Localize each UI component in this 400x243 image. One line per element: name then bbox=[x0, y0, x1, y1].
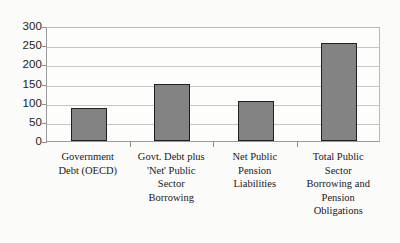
x-axis-category-label-line: Pension bbox=[215, 164, 295, 178]
x-axis-category-label-line: Pension bbox=[299, 191, 379, 205]
y-axis-tick-label: 200 bbox=[2, 59, 42, 71]
x-axis-category-label-line: Liabilities bbox=[215, 177, 295, 191]
x-axis-category-label-line: Net Public bbox=[215, 150, 295, 164]
x-axis-labels: GovernmentDebt (OECD)Govt. Debt plus'Net… bbox=[46, 150, 380, 240]
x-axis-category-label-line: Govt. Debt plus bbox=[132, 150, 212, 164]
x-axis-category-label-line: Borrowing bbox=[132, 191, 212, 205]
chart-page: 300250200150100500 GovernmentDebt (OECD)… bbox=[0, 0, 400, 243]
x-axis-tick-mark bbox=[130, 142, 131, 147]
x-axis-category-label-line: Obligations bbox=[299, 204, 379, 218]
x-axis-category-label-line: Government bbox=[48, 150, 128, 164]
x-axis-category-label-line: Sector bbox=[299, 164, 379, 178]
bar bbox=[154, 84, 190, 141]
bar-slot bbox=[214, 28, 298, 141]
x-axis-category-label-line: 'Net' Public bbox=[132, 164, 212, 178]
y-axis-tick-label: 150 bbox=[2, 79, 42, 91]
bar bbox=[71, 108, 107, 141]
x-axis-category-label-line: Total Public bbox=[299, 150, 379, 164]
y-axis-tick-label: 300 bbox=[2, 21, 42, 33]
x-axis-category-label: Net PublicPensionLiabilities bbox=[213, 150, 297, 240]
bar bbox=[321, 43, 357, 141]
y-axis-tick-label: 0 bbox=[2, 136, 42, 148]
x-axis-category-label: Total PublicSectorBorrowing andPensionOb… bbox=[297, 150, 381, 240]
x-axis-category-label: Govt. Debt plus'Net' PublicSectorBorrowi… bbox=[130, 150, 214, 240]
bar-slot bbox=[131, 28, 215, 141]
x-axis-category-label-line: Borrowing and bbox=[299, 177, 379, 191]
y-axis-tick-mark bbox=[42, 142, 47, 143]
y-axis-tick-label: 100 bbox=[2, 98, 42, 110]
bar bbox=[238, 101, 274, 141]
x-axis-category-label-line: Debt (OECD) bbox=[48, 164, 128, 178]
x-axis-tick-mark bbox=[213, 142, 214, 147]
bar-slot bbox=[298, 28, 382, 141]
x-axis-category-label: GovernmentDebt (OECD) bbox=[46, 150, 130, 240]
plot-area bbox=[46, 27, 380, 142]
bar-slot bbox=[47, 28, 131, 141]
y-axis-tick-label: 50 bbox=[2, 117, 42, 129]
y-axis-tick-label: 250 bbox=[2, 40, 42, 52]
x-axis-category-label-line: Sector bbox=[132, 177, 212, 191]
x-axis-tick-mark bbox=[297, 142, 298, 147]
